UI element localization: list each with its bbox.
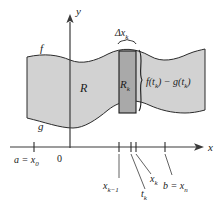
area-between-curves-figure: y x 0 f g R Rk Δxk f(tk) − g(tk) a = x0 …: [0, 0, 223, 207]
delta-xk-label-main: Δx: [114, 27, 126, 38]
delta-xk-label-sub: k: [125, 33, 129, 41]
y-axis-arrowhead: [66, 14, 73, 23]
curve-f-label: f: [40, 42, 45, 54]
height-expr-f: f(t: [146, 76, 155, 88]
leader-tk: [131, 154, 145, 189]
delta-xk-label: Δxk: [114, 27, 129, 41]
tick-label-a-x0: a = x0: [14, 154, 39, 168]
region-R-shape: [27, 49, 205, 128]
tick-label-a-x0-sub: 0: [35, 160, 39, 168]
figure-canvas: y x 0 f g R Rk Δxk f(tk) − g(tk) a = x0 …: [0, 0, 223, 207]
tick-label-a-x0-main: a = x: [14, 154, 36, 165]
y-axis-label: y: [75, 5, 81, 17]
tick-label-tk-sub: k: [144, 194, 148, 202]
curve-g-label: g: [38, 120, 44, 132]
tick-label-xk-sub: k: [154, 179, 158, 187]
leader-xk: [136, 154, 151, 174]
height-expr-mid: ) − g(t: [157, 76, 184, 88]
region-R-label: R: [79, 81, 88, 95]
height-expr-end: ): [186, 76, 191, 88]
x-axis-label: x: [207, 141, 213, 153]
tick-label-xk-minus-1-sub: k−1: [107, 186, 118, 194]
tick-label-b-xn-main: b = x: [163, 180, 185, 191]
tick-label-b-xn-sub: n: [184, 186, 188, 194]
tick-label-tk: tk: [141, 188, 148, 202]
leader-b-xn: [165, 154, 172, 175]
tick-label-xk: xk: [149, 173, 158, 187]
tick-label-xk-minus-1: xk−1: [102, 180, 119, 194]
region-R-fill: [27, 49, 205, 128]
tick-label-b-xn: b = xn: [163, 180, 188, 194]
origin-label: 0: [57, 153, 62, 164]
